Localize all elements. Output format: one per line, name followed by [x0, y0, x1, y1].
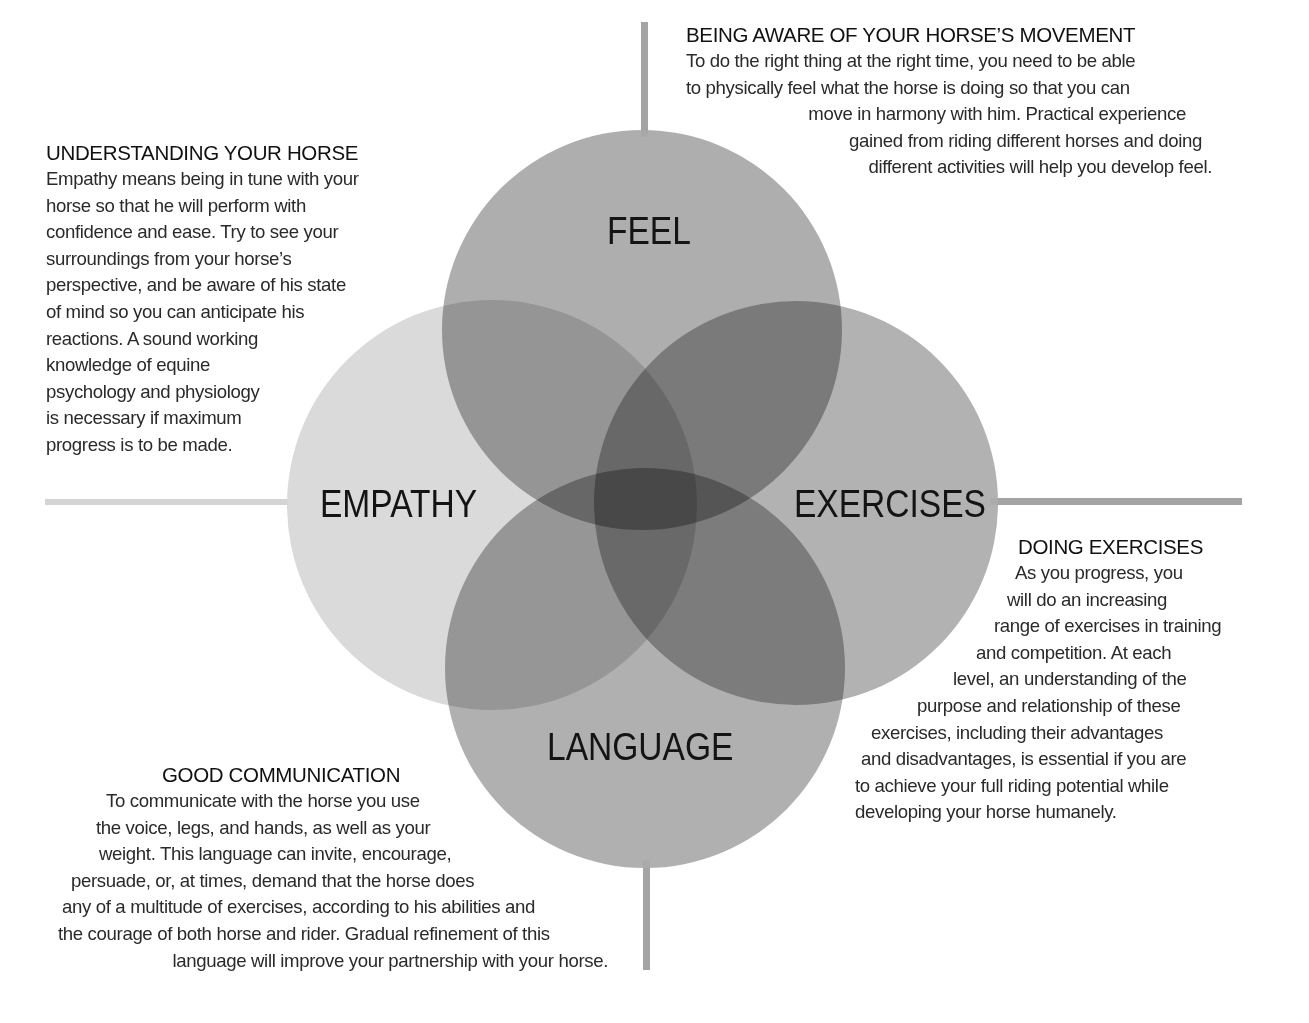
axis-line-bottom: [643, 860, 650, 970]
section-feel-line: different activities will help you devel…: [686, 154, 1212, 181]
section-exercises-line: and disadvantages, is essential if you a…: [855, 746, 1240, 773]
section-exercises-line: level, an understanding of the: [855, 666, 1240, 693]
section-empathy-line: surroundings from your horse’s: [46, 246, 359, 273]
section-feel-line: gained from riding different horses and …: [686, 128, 1212, 155]
section-language-line: language will improve your partnership w…: [56, 948, 608, 975]
section-empathy-line: Empathy means being in tune with your: [46, 166, 359, 193]
section-language-line: the courage of both horse and rider. Gra…: [56, 921, 608, 948]
section-empathy-line: is necessary if maximum: [46, 405, 359, 432]
label-exercises: EXERCISES: [794, 484, 986, 523]
axis-line-top: [641, 22, 648, 137]
section-exercises-heading: DOING EXERCISES: [855, 534, 1240, 560]
section-exercises-line: exercises, including their advantages: [855, 720, 1240, 747]
axis-line-left: [45, 499, 295, 505]
section-empathy-line: confidence and ease. Try to see your: [46, 219, 359, 246]
section-empathy-line: psychology and physiology: [46, 379, 359, 406]
section-empathy-line: knowledge of equine: [46, 352, 359, 379]
section-empathy: UNDERSTANDING YOUR HORSE Empathy means b…: [46, 140, 359, 459]
section-language: GOOD COMMUNICATION To communicate with t…: [56, 762, 608, 974]
section-empathy-heading: UNDERSTANDING YOUR HORSE: [46, 140, 359, 166]
section-empathy-line: reactions. A sound working: [46, 326, 359, 353]
section-empathy-line: of mind so you can anticipate his: [46, 299, 359, 326]
axis-line-right: [990, 498, 1242, 505]
section-exercises-line: will do an increasing: [855, 587, 1240, 614]
section-language-heading: GOOD COMMUNICATION: [56, 762, 608, 788]
section-feel: BEING AWARE OF YOUR HORSE’S MOVEMENT To …: [686, 22, 1212, 181]
section-feel-line: move in harmony with him. Practical expe…: [686, 101, 1212, 128]
section-language-line: the voice, legs, and hands, as well as y…: [56, 815, 608, 842]
section-empathy-line: horse so that he will perform with: [46, 193, 359, 220]
section-empathy-line: progress is to be made.: [46, 432, 359, 459]
section-language-line: any of a multitude of exercises, accordi…: [56, 894, 608, 921]
label-language: LANGUAGE: [547, 727, 733, 766]
section-language-line: weight. This language can invite, encour…: [56, 841, 608, 868]
section-empathy-line: perspective, and be aware of his state: [46, 272, 359, 299]
section-exercises: DOING EXERCISES As you progress, you wil…: [855, 534, 1240, 826]
section-exercises-line: and competition. At each: [855, 640, 1240, 667]
section-exercises-line: to achieve your full riding potential wh…: [855, 773, 1240, 800]
section-exercises-line: As you progress, you: [855, 560, 1240, 587]
label-feel: FEEL: [607, 211, 691, 250]
section-exercises-line: developing your horse humanely.: [855, 799, 1240, 826]
section-language-line: persuade, or, at times, demand that the …: [56, 868, 608, 895]
section-feel-heading: BEING AWARE OF YOUR HORSE’S MOVEMENT: [686, 22, 1212, 48]
label-empathy: EMPATHY: [320, 484, 477, 523]
section-feel-line: To do the right thing at the right time,…: [686, 48, 1212, 75]
section-language-line: To communicate with the horse you use: [56, 788, 608, 815]
section-feel-line: to physically feel what the horse is doi…: [686, 75, 1212, 102]
section-exercises-line: range of exercises in training: [855, 613, 1240, 640]
section-exercises-line: purpose and relationship of these: [855, 693, 1240, 720]
